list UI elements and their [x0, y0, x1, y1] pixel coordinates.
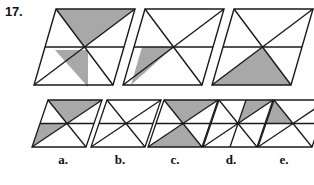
option-a-diag-br — [67, 124, 86, 148]
sequence-figure-2 — [123, 9, 224, 85]
option-d-center-vertical-bottom — [230, 124, 238, 148]
option-b-diag-bl — [91, 124, 126, 148]
sequence-figure-3-shade — [212, 47, 291, 85]
option-figure-e[interactable] — [258, 100, 314, 147]
option-label-row: a. b. c. d. e. — [0, 152, 314, 174]
option-b-diag-br — [126, 124, 145, 148]
sequence-figure-1 — [34, 9, 135, 87]
option-label-b[interactable]: b. — [108, 152, 132, 168]
sequence-figure-1-shaded-top-right — [55, 50, 88, 87]
sequence-figure-3-diag-tl — [234, 9, 263, 47]
option-label-e[interactable]: e. — [272, 152, 296, 168]
option-e-diag-tr — [293, 100, 314, 124]
sequence-figure-2-diag-br — [174, 47, 203, 85]
option-d-diag-br — [238, 124, 257, 148]
option-c-shade-bottom — [148, 124, 202, 148]
option-b-diag-tl — [107, 100, 126, 124]
sequence-figure-1-shade — [56, 9, 135, 47]
sequence-figure-3 — [212, 9, 313, 85]
option-d-diag-tl — [219, 100, 238, 124]
sequence-figure-1-diag-br — [85, 47, 114, 85]
option-a-shade-top-right — [48, 100, 102, 124]
sequence-figure-2-diag-tr — [174, 9, 225, 47]
sequence-figure-2-diag-tl — [145, 9, 174, 47]
option-label-a[interactable]: a. — [51, 152, 75, 168]
option-b-diag-tr — [126, 100, 161, 124]
option-label-d[interactable]: d. — [219, 152, 243, 168]
option-figure-d[interactable] — [203, 100, 273, 147]
option-label-c[interactable]: c. — [163, 152, 187, 168]
option-c-shade-top — [164, 100, 218, 124]
sequence-figure-2-shade — [131, 47, 174, 85]
option-e-diag-br — [293, 124, 312, 148]
option-figure-a[interactable] — [32, 100, 102, 147]
sequence-figure-3-diag-tr — [263, 9, 314, 47]
